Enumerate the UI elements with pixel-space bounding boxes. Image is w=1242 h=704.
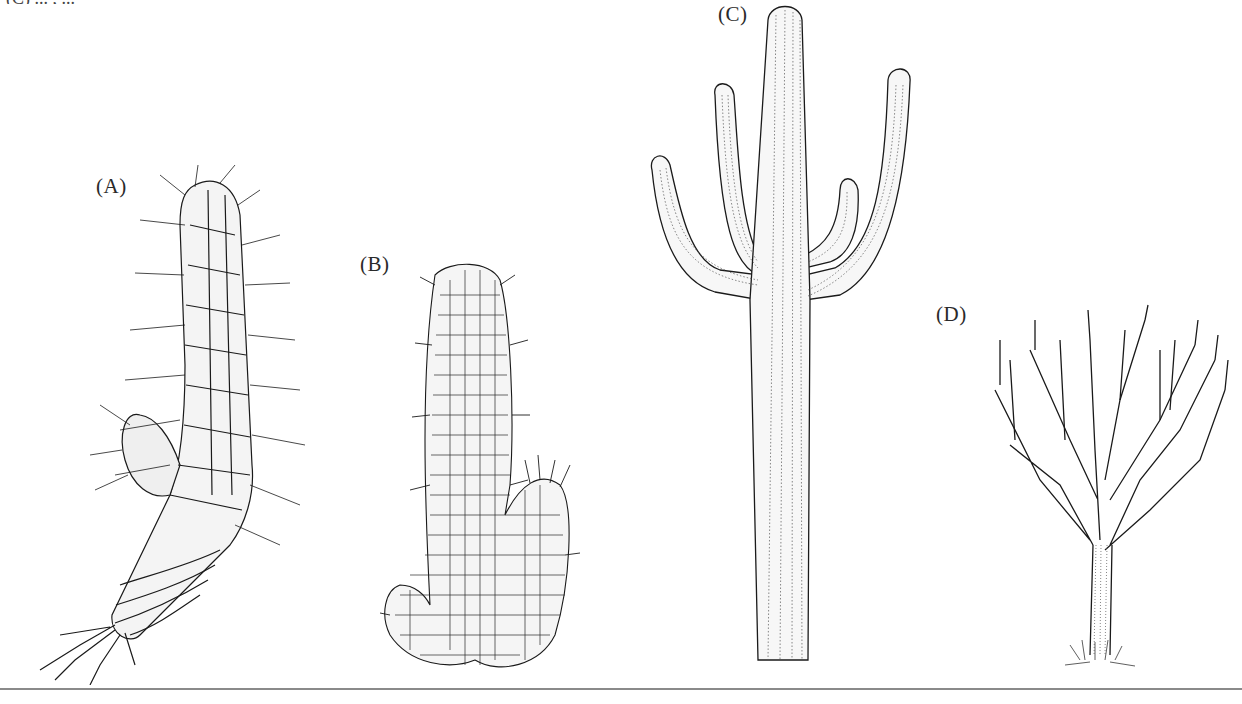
illustration-succulent-b: [380, 255, 580, 675]
illustration-cactus-a: [20, 165, 320, 685]
clipped-caption-text: (C) ... , ...: [6, 0, 606, 4]
panel-label-d: (D): [936, 302, 967, 327]
illustration-euphorbia-d: [970, 300, 1240, 680]
illustration-saguaro-c: [640, 0, 930, 680]
bottom-rule-divider: [0, 688, 1242, 690]
